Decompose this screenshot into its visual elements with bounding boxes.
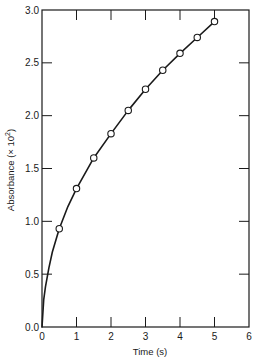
data-point-marker bbox=[56, 226, 62, 232]
data-point-marker bbox=[125, 107, 131, 113]
x-tick-label: 3 bbox=[143, 331, 149, 342]
y-tick-labels: 0.00.51.01.52.02.53.0 bbox=[25, 5, 39, 333]
data-point-marker bbox=[91, 155, 97, 161]
data-point-marker bbox=[108, 130, 114, 136]
data-point-marker bbox=[194, 34, 200, 40]
x-tick-labels: 0123456 bbox=[39, 331, 252, 342]
y-tick-label: 3.0 bbox=[25, 5, 39, 16]
y-axis-label-close: ) bbox=[5, 129, 16, 132]
y-axis-label: Absorbance (× 102) bbox=[4, 129, 16, 211]
axis-ticks bbox=[42, 10, 249, 327]
x-tick-label: 4 bbox=[177, 331, 183, 342]
data-point-marker bbox=[211, 18, 217, 24]
x-tick-label: 6 bbox=[246, 331, 252, 342]
y-axis-label-main: Absorbance ( bbox=[5, 154, 16, 211]
x-tick-label: 1 bbox=[74, 331, 80, 342]
y-axis-label-times: × 10 bbox=[5, 136, 16, 155]
y-tick-label: 0.5 bbox=[25, 269, 39, 280]
data-point-marker bbox=[142, 86, 148, 92]
y-tick-label: 2.5 bbox=[25, 57, 39, 68]
y-tick-label: 1.5 bbox=[25, 163, 39, 174]
x-tick-label: 0 bbox=[39, 331, 45, 342]
data-point-marker bbox=[177, 50, 183, 56]
y-tick-label: 1.0 bbox=[25, 216, 39, 227]
plot-border bbox=[42, 10, 249, 327]
plot-frame bbox=[42, 10, 249, 327]
x-tick-label: 2 bbox=[108, 331, 114, 342]
data-point-marker bbox=[160, 67, 166, 73]
y-tick-label: 2.0 bbox=[25, 110, 39, 121]
fitted-curve-line bbox=[42, 22, 215, 327]
y-tick-label: 0.0 bbox=[25, 322, 39, 333]
data-point-markers bbox=[56, 18, 218, 232]
data-point-marker bbox=[73, 185, 79, 191]
x-axis-label: Time (s) bbox=[133, 346, 167, 357]
x-tick-label: 5 bbox=[212, 331, 218, 342]
absorbance-vs-time-chart: 0123456 0.00.51.01.52.02.53.0 Time (s) A… bbox=[0, 0, 261, 363]
